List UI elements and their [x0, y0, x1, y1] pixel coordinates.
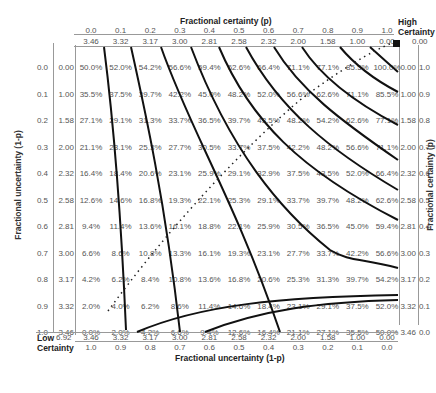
diagonal-dotted-line [108, 43, 392, 311]
contour-overlay [0, 0, 436, 393]
high-certainty-marker-icon [393, 40, 400, 47]
